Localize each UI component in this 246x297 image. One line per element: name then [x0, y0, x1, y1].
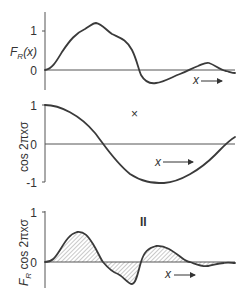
equals-operator: II [140, 215, 147, 229]
figure-canvas: 1 0 FR(x) x 1 0 -1 cos 2πxσ × x 1 0 FR c… [0, 0, 246, 297]
x-axis-label: x [154, 155, 162, 169]
y-axis-label: cos 2πxσ [17, 121, 31, 172]
tick-label-1: 1 [30, 24, 37, 38]
times-operator: × [131, 107, 138, 121]
panel-top: 1 0 FR(x) x [10, 12, 235, 90]
y-axis-label: FR cos 2πxσ [17, 219, 33, 286]
fr-curve [45, 23, 235, 83]
hatched-area [45, 232, 235, 284]
tick-label-0: 0 [30, 138, 37, 152]
tick-label-1: 1 [30, 99, 37, 113]
tick-label-0: 0 [30, 64, 37, 78]
tick-label-minus-1: -1 [26, 176, 37, 190]
y-axis-label: FR(x) [10, 45, 37, 61]
panel-middle: 1 0 -1 cos 2πxσ × x [17, 99, 235, 190]
x-axis-label: x [192, 73, 200, 87]
tick-label-1: 1 [30, 206, 37, 220]
x-axis-label: x [164, 267, 172, 281]
panel-bottom: 1 0 FR cos 2πxσ II x [17, 206, 235, 288]
tick-label-0: 0 [30, 256, 37, 270]
